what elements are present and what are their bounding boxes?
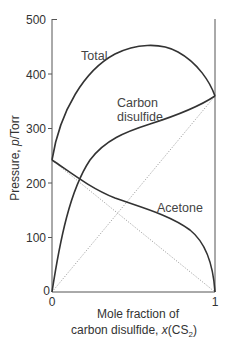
- y-axis-label: Pressure, p/Torr: [8, 115, 22, 200]
- ideal-acetone-line: [52, 160, 215, 292]
- y-tick-label-300: 300: [26, 122, 46, 136]
- ideal-cs2-line: [52, 96, 215, 292]
- y-tick-label-400: 400: [26, 68, 46, 82]
- cs2-label-line1: Carbon: [117, 96, 158, 110]
- x-tick-label-1: 1: [212, 295, 219, 309]
- curves: [52, 45, 215, 292]
- y-tick-label-500: 500: [26, 13, 46, 27]
- y-tick-labels: 500 400 300 200 100 0: [26, 13, 50, 298]
- x-tick-label-0: 0: [49, 295, 56, 309]
- ideal-lines: [52, 96, 215, 292]
- y-tick-label-200: 200: [26, 177, 46, 191]
- x-axis-label-line1: Mole fraction of: [97, 307, 180, 321]
- total-label: Total: [81, 49, 107, 63]
- x-axis-label-line2: carbon disulfide, x(CS2): [71, 323, 197, 339]
- acetone-label: Acetone: [157, 201, 203, 215]
- y-tick-label-100: 100: [26, 231, 46, 245]
- vapor-pressure-chart: 500 400 300 200 100 0 0 1 Total Carbon d…: [0, 0, 226, 346]
- cs2-label-line2: disulfide: [117, 110, 163, 124]
